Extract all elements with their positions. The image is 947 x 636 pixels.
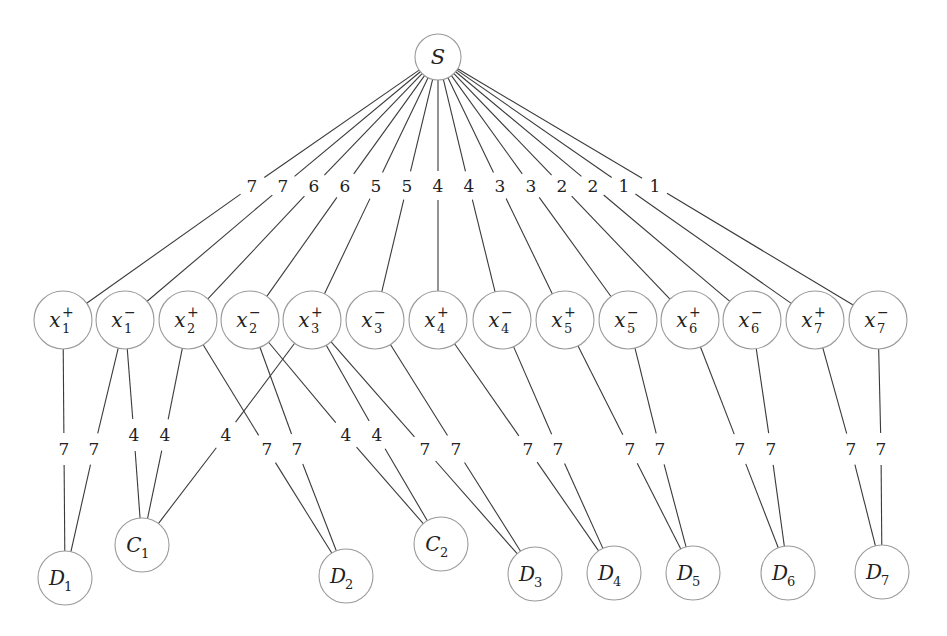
node-literal-x3p-circle <box>283 291 341 349</box>
edge-S-x5m-lower <box>539 197 611 296</box>
node-literal-x6m-circle <box>723 291 781 349</box>
edge-x3m-D3-upper <box>390 345 447 436</box>
node-literal-x7m-label: x <box>864 308 875 332</box>
node-literal-x4p-circle <box>409 291 467 349</box>
node-literal-x3p: x3+ <box>283 291 341 349</box>
node-literal-x5m-superscript: − <box>627 304 639 320</box>
node-D1: D1 <box>38 551 92 605</box>
edge-weight-S-x1m: 7 <box>278 176 289 196</box>
edge-weight-x4m-D4: 7 <box>553 439 564 459</box>
edge-weight-S-x5p: 3 <box>495 176 506 196</box>
edge-S-x3m-upper <box>411 79 433 171</box>
edge-x6m-D6-lower <box>773 465 784 546</box>
node-literal-x7m-subscript: 7 <box>877 321 885 336</box>
edge-x4m-D4-lower <box>565 464 603 549</box>
edge-x2p-C1-upper <box>168 348 182 419</box>
node-literal-x6m: x6− <box>723 291 781 349</box>
node-literal-x1m-circle <box>96 291 154 349</box>
edge-x3p-D3-upper <box>331 342 414 437</box>
node-literal-x4m-subscript: 4 <box>501 321 509 336</box>
edge-x3p-C2-lower <box>385 449 427 521</box>
node-literal-x1m-subscript: 1 <box>124 321 132 336</box>
edge-x1m-D1-upper <box>98 348 118 433</box>
node-literal-x5m-label: x <box>614 308 625 332</box>
node-D3-label: D <box>518 562 535 586</box>
node-D7-label: D <box>865 560 882 584</box>
node-D5: D5 <box>666 546 720 600</box>
node-literal-x2m-circle <box>221 291 279 349</box>
edge-weight-S-x2p: 6 <box>309 176 320 196</box>
edge-x3p-C2-upper <box>326 345 369 421</box>
node-literal-x4m-label: x <box>488 308 499 332</box>
node-C2-label: C <box>425 532 440 556</box>
edge-weight-x3p-C1: 4 <box>221 425 232 445</box>
edge-x6p-D6-upper <box>700 347 734 434</box>
edge-weight-x5m-D5: 7 <box>655 439 666 459</box>
node-literal-x1p-label: x <box>49 308 60 332</box>
node-literal-x3m-label: x <box>361 308 372 332</box>
node-C1-label: C <box>126 533 141 557</box>
edge-weight-x3p-D3: 7 <box>420 439 431 459</box>
node-literal-x3m-subscript: 3 <box>374 321 382 336</box>
edge-x4m-D4-upper <box>514 347 552 435</box>
node-literal-x1p-superscript: + <box>62 304 74 320</box>
node-literal-x1m: x1− <box>96 291 154 349</box>
node-D4-subscript: 4 <box>613 574 621 589</box>
node-literal-x2m-subscript: 2 <box>249 321 257 336</box>
node-D6-label: D <box>771 561 788 585</box>
node-D6: D6 <box>761 546 815 600</box>
node-C2: C2 <box>414 517 468 571</box>
edge-weight-x7p-D7: 7 <box>846 439 857 459</box>
node-literal-x7p-label: x <box>801 308 812 332</box>
node-literal-x1m-label: x <box>111 308 122 332</box>
edge-weight-x3m-D3: 7 <box>451 439 462 459</box>
edge-x7p-D7-upper <box>823 348 847 434</box>
edge-weight-S-x3m: 5 <box>402 176 413 196</box>
node-D6-subscript: 6 <box>787 574 795 589</box>
edge-weight-x4p-D4: 7 <box>523 439 534 459</box>
edge-weight-x1m-C1: 4 <box>129 425 140 445</box>
edge-weight-S-x4p: 4 <box>433 176 444 196</box>
node-literal-x2p: x2+ <box>159 291 217 349</box>
node-literal-x1p-subscript: 1 <box>62 321 70 336</box>
node-D5-subscript: 5 <box>692 574 700 589</box>
edge-weight-x2m-C2: 4 <box>341 425 352 445</box>
edge-x2m-D2-lower <box>303 464 337 551</box>
edge-S-x1m-upper <box>295 72 421 177</box>
edge-weight-S-x5m: 3 <box>526 176 537 196</box>
node-literal-x4m-circle <box>473 291 531 349</box>
node-literal-x2p-label: x <box>174 308 185 332</box>
edge-weight-x7m-D7: 7 <box>876 439 887 459</box>
edge-S-x1p-upper <box>264 70 419 177</box>
edge-weight-S-x3p: 5 <box>371 176 382 196</box>
node-literal-x7m-circle <box>849 291 907 349</box>
node-literal-x2p-subscript: 2 <box>187 321 195 336</box>
node-C1-subscript: 1 <box>141 546 149 561</box>
node-literal-x5p: x5+ <box>536 291 594 349</box>
edge-x3p-C1-lower <box>158 448 216 524</box>
node-literal-x4p-label: x <box>424 308 435 332</box>
edge-S-x7m-lower <box>667 193 853 305</box>
node-D4-label: D <box>597 561 614 585</box>
node-literal-x3m-superscript: − <box>374 304 386 320</box>
nodes-layer: Sx1+x1−x2+x2−x3+x3−x4+x4−x5+x5−x6+x6−x7+… <box>34 34 909 605</box>
node-D4: D4 <box>587 546 641 600</box>
edge-S-x4m-lower <box>472 200 495 292</box>
node-literal-x7m-superscript: − <box>877 304 889 320</box>
node-C1: C1 <box>115 518 169 572</box>
node-C2-circle <box>414 517 468 571</box>
node-literal-x6p: x6+ <box>661 291 719 349</box>
edge-x7m-D7-lower <box>881 465 882 545</box>
node-D3-subscript: 3 <box>534 575 542 590</box>
node-literal-x7p-superscript: + <box>814 304 826 320</box>
node-literal-x4p: x4+ <box>409 291 467 349</box>
edge-x3p-C1-upper <box>236 343 295 422</box>
node-literal-x5p-circle <box>536 291 594 349</box>
node-literal-x1p: x1+ <box>34 291 92 349</box>
node-literal-x5m: x5− <box>599 291 657 349</box>
edge-weight-S-x1p: 7 <box>247 176 258 196</box>
edge-S-x2p-upper <box>324 74 422 176</box>
edge-weight-x1m-D1: 7 <box>89 439 100 459</box>
node-literal-x3p-subscript: 3 <box>311 321 319 336</box>
edge-x1m-C1-upper <box>127 349 132 419</box>
